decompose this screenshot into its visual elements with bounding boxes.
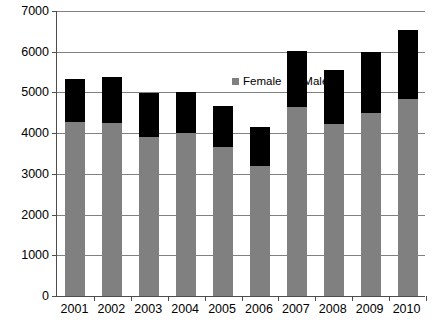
x-tick-mark — [315, 296, 316, 301]
y-tick-label-6000: 6000 — [3, 45, 49, 59]
plot-area: 7000 6000 5000 4000 3000 — [56, 11, 425, 297]
bar-segment-male — [250, 127, 270, 166]
x-tick-mark — [352, 296, 353, 301]
bar-segment-female — [102, 123, 122, 296]
y-tick-label-4000: 4000 — [3, 126, 49, 140]
bar-group-2008 — [324, 70, 344, 296]
bar-segment-male — [213, 106, 233, 147]
bar-segment-female — [250, 166, 270, 296]
legend-item-female: Female — [232, 75, 281, 87]
bar-segment-male — [65, 79, 85, 122]
y-tick-label-5000: 5000 — [3, 85, 49, 99]
bar-group-2002 — [102, 77, 122, 296]
legend-swatch-female — [232, 78, 239, 85]
y-tick-label-1000: 1000 — [3, 248, 49, 262]
bar-segment-female — [398, 99, 418, 296]
bar-group-2009 — [361, 52, 381, 296]
stacked-bar-chart: 7000 6000 5000 4000 3000 — [0, 0, 433, 333]
y-tick-label-3000: 3000 — [3, 167, 49, 181]
bar-group-2003 — [139, 93, 159, 296]
bar-segment-female — [176, 133, 196, 296]
bar-segment-female — [361, 113, 381, 296]
x-tick-mark — [389, 296, 390, 301]
bar-group-2004 — [176, 92, 196, 296]
legend-item-male: Male — [292, 75, 328, 87]
x-tick-mark — [242, 296, 243, 301]
x-tick-mark — [426, 296, 427, 301]
x-tick-label-2010: 2010 — [384, 302, 430, 316]
legend-label-male: Male — [303, 75, 328, 87]
bar-segment-male — [139, 93, 159, 137]
bar-segment-male — [398, 30, 418, 99]
y-tick-label-7000: 7000 — [3, 4, 49, 18]
bar-segment-female — [213, 147, 233, 296]
bar-group-2001 — [65, 79, 85, 296]
x-tick-mark — [168, 296, 169, 301]
bar-segment-female — [324, 124, 344, 296]
y-tick-mark — [52, 296, 57, 297]
legend: Female Male — [232, 75, 328, 87]
bar-segment-female — [287, 107, 307, 296]
bar-group-2007 — [287, 51, 307, 296]
bar-segment-female — [65, 122, 85, 296]
x-tick-mark — [278, 296, 279, 301]
x-tick-mark — [94, 296, 95, 301]
bars-layer — [57, 11, 425, 296]
y-tick-label-0: 0 — [3, 289, 49, 303]
bar-segment-female — [139, 137, 159, 296]
bar-segment-male — [176, 92, 196, 132]
legend-swatch-male — [292, 78, 299, 85]
bar-segment-male — [102, 77, 122, 124]
bar-group-2006 — [250, 127, 270, 296]
x-tick-mark — [131, 296, 132, 301]
legend-label-female: Female — [243, 75, 281, 87]
x-tick-mark — [205, 296, 206, 301]
bar-group-2010 — [398, 30, 418, 296]
y-tick-label-2000: 2000 — [3, 208, 49, 222]
bar-segment-male — [361, 52, 381, 113]
bar-group-2005 — [213, 106, 233, 296]
